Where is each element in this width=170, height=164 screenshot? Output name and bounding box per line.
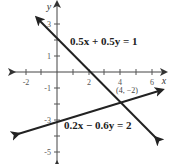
y-axis-label: y <box>46 1 52 12</box>
x-axis-label: x <box>161 75 167 86</box>
y-tick-label: 1 <box>47 52 51 61</box>
x-tick-label: -2 <box>23 78 30 87</box>
y-tick-label: -1 <box>44 84 51 93</box>
intersection-label: (4, −2) <box>116 86 138 95</box>
coordinate-plane: -2 2 4 6 3 1 -1 -3 -5 x y 0.5x + 0.5y = … <box>0 0 170 164</box>
x-tick-label: 2 <box>87 78 91 87</box>
equation-label-1: 0.5x + 0.5y = 1 <box>70 35 138 47</box>
y-tick-label: -5 <box>44 148 51 157</box>
x-tick-label: 6 <box>150 78 154 87</box>
y-axis <box>54 2 60 162</box>
equation-label-2: 0.2x − 0.6y = 2 <box>64 119 132 131</box>
